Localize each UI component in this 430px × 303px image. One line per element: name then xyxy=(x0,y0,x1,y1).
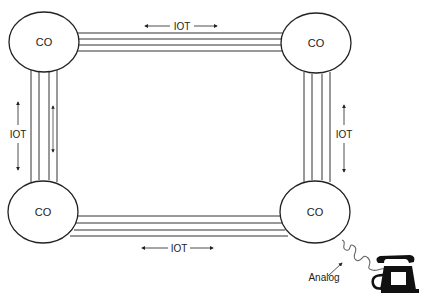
network-diagram: CO CO CO CO IOT IOT IOT IOT A xyxy=(0,0,430,303)
co-label: CO xyxy=(35,206,52,218)
analog-label: Analog xyxy=(308,272,339,283)
iot-label: IOT xyxy=(174,21,191,32)
analog-cord xyxy=(342,240,386,270)
co-label: CO xyxy=(36,36,53,48)
co-label: CO xyxy=(308,37,325,49)
telephone-icon xyxy=(373,255,419,293)
trunk-bottom xyxy=(70,216,288,236)
iot-label: IOT xyxy=(336,129,353,140)
co-node-bottom-left: CO xyxy=(8,181,78,243)
trunk-top xyxy=(76,33,283,51)
co-node-top-left: CO xyxy=(9,12,79,72)
trunk-right xyxy=(304,72,330,182)
co-node-bottom-right: CO xyxy=(280,181,350,243)
iot-label: IOT xyxy=(10,129,27,140)
co-label: CO xyxy=(307,206,324,218)
iot-label: IOT xyxy=(171,243,188,254)
co-node-top-right: CO xyxy=(281,13,351,73)
